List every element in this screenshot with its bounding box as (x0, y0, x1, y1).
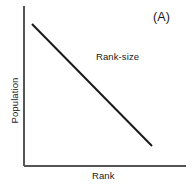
plot-area (0, 0, 192, 194)
x-axis-label: Rank (92, 170, 115, 181)
plot-background (0, 0, 192, 194)
y-axis-label: Population (9, 65, 20, 137)
figure-panel: (A) Rank-size Population Rank (0, 0, 192, 194)
series-label-rank-size: Rank-size (96, 51, 139, 62)
panel-label: (A) (153, 10, 170, 24)
